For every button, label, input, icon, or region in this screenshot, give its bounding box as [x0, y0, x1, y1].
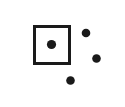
dot-lower-center: [66, 76, 75, 85]
dot-middle-right: [92, 54, 101, 63]
diagram-canvas: [0, 0, 125, 107]
diagram-svg: [0, 0, 125, 107]
dot-upper-right: [82, 29, 91, 38]
center-dot: [47, 40, 56, 49]
